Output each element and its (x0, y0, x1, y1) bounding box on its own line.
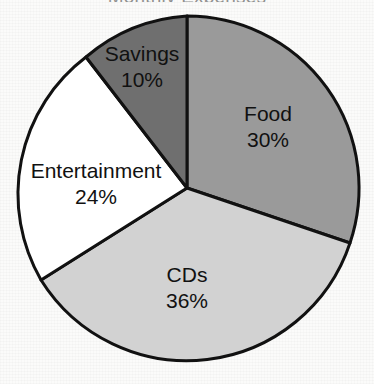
pie-chart-svg: Food 30% CDs 36% Entertainment 24% Savin… (0, 0, 374, 384)
pie-label-cds-name: CDs (167, 263, 208, 286)
pie-label-food-pct: 30% (247, 128, 289, 151)
pie-label-food-name: Food (244, 102, 292, 125)
pie-chart: Food 30% CDs 36% Entertainment 24% Savin… (0, 0, 374, 384)
pie-label-savings-name: Savings (105, 42, 180, 65)
pie-label-entertainment-pct: 24% (75, 185, 117, 208)
pie-label-savings-pct: 10% (121, 68, 163, 91)
pie-label-cds-pct: 36% (166, 289, 208, 312)
pie-label-entertainment-name: Entertainment (31, 159, 162, 182)
